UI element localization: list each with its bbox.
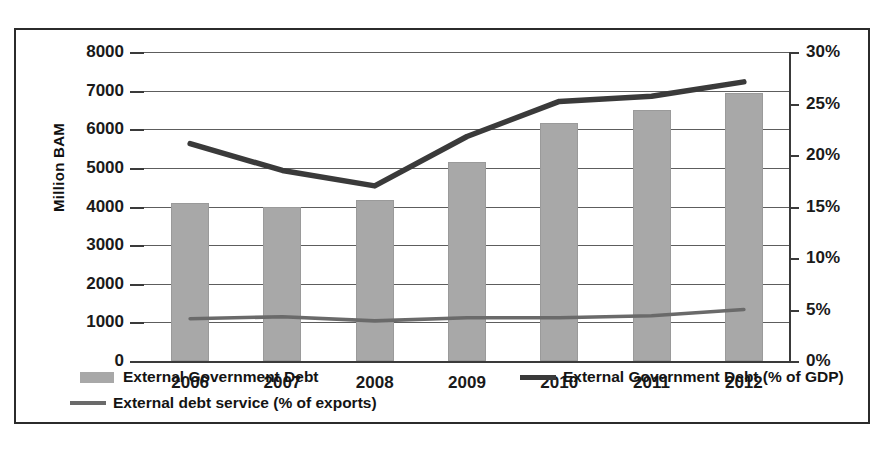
y-tick-label-left-7000: 7000 (86, 81, 124, 101)
y-axis-title: Million BAM (50, 123, 67, 212)
thin-line-swatch-icon (70, 401, 106, 405)
line-gov-debt-gdp (190, 82, 744, 186)
y-tick-left-5000 (130, 168, 144, 170)
line-series-group (144, 52, 790, 361)
y-tick-label-left-5000: 5000 (86, 158, 124, 178)
y-tick-left-6000 (130, 129, 144, 131)
y-tick-label-right-30: 30% (806, 42, 840, 62)
y-tick-label-right-5: 5% (806, 300, 831, 320)
y-tick-left-0 (130, 361, 144, 363)
gridline-0 (144, 361, 790, 363)
legend-label-gov-debt-gdp: External Government Debt (% of GDP) (563, 368, 844, 386)
y-tick-left-1000 (130, 322, 144, 324)
y-tick-right-5 (790, 310, 799, 312)
y-tick-right-30 (790, 52, 799, 54)
y-tick-label-right-25: 25% (806, 94, 840, 114)
y-tick-left-3000 (130, 245, 144, 247)
y-tick-label-left-2000: 2000 (86, 274, 124, 294)
plot-area: 800070006000500040003000200010000 30%25%… (144, 52, 790, 361)
y-tick-right-25 (790, 104, 799, 106)
y-tick-right-0 (790, 361, 799, 363)
line-debt-service (190, 310, 744, 321)
y-tick-left-8000 (130, 52, 144, 54)
legend-label-debt-service: External debt service (% of exports) (113, 394, 377, 412)
legend-item-debt-service[interactable]: External debt service (% of exports) (70, 394, 377, 412)
legend-item-gov-debt-gdp[interactable]: External Government Debt (% of GDP) (520, 368, 844, 386)
y-tick-label-right-20: 20% (806, 145, 840, 165)
line-swatch-icon (520, 375, 556, 380)
y-tick-left-7000 (130, 91, 144, 93)
y-tick-label-right-15: 15% (806, 197, 840, 217)
legend-row-2: External debt service (% of exports) (46, 394, 866, 420)
bar-swatch-icon (80, 372, 114, 383)
legend-label-gov-debt: External Government Debt (123, 368, 319, 386)
y-tick-label-left-4000: 4000 (86, 197, 124, 217)
chart-frame: Million BAM 8000700060005000400030002000… (14, 28, 870, 424)
y-tick-label-left-8000: 8000 (86, 42, 124, 62)
y-tick-left-2000 (130, 284, 144, 286)
y-tick-label-left-3000: 3000 (86, 235, 124, 255)
y-tick-left-4000 (130, 207, 144, 209)
y-tick-label-right-10: 10% (806, 248, 840, 268)
y-tick-right-20 (790, 155, 799, 157)
legend-row-1: External Government Debt External Govern… (46, 368, 866, 394)
chart-legend: External Government Debt External Govern… (46, 368, 866, 420)
y-tick-label-left-1000: 1000 (86, 312, 124, 332)
y-tick-right-15 (790, 207, 799, 209)
legend-item-gov-debt[interactable]: External Government Debt (80, 368, 319, 386)
y-tick-label-left-6000: 6000 (86, 119, 124, 139)
y-tick-right-10 (790, 258, 799, 260)
